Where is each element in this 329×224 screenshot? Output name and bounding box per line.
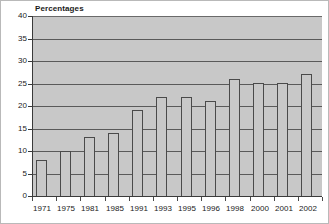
- y-tick-mark-15: [28, 129, 32, 130]
- percentages-bar-chart: Percentages 0510152025303540 19711975198…: [0, 0, 329, 224]
- x-tick-label-1995: 1995: [175, 204, 199, 213]
- x-tick-mark-1985: [105, 197, 106, 201]
- y-axis-tick-labels: 0510152025303540: [1, 1, 27, 224]
- y-tick-label-25: 25: [3, 80, 27, 88]
- y-tick-label-40: 40: [3, 12, 27, 20]
- y-tick-mark-30: [28, 61, 32, 62]
- x-tick-label-1985: 1985: [103, 204, 127, 213]
- x-tick-label-2001: 2001: [272, 204, 296, 213]
- y-tick-mark-25: [28, 84, 32, 85]
- bar-1991: [132, 110, 143, 196]
- y-tick-mark-40: [28, 16, 32, 17]
- y-tick-label-0: 0: [3, 192, 27, 200]
- y-tick-label-15: 15: [3, 125, 27, 133]
- x-tick-label-1991: 1991: [127, 204, 151, 213]
- gridline-30: [32, 61, 322, 62]
- plot-area: [32, 16, 322, 196]
- x-tick-label-1975: 1975: [54, 204, 78, 213]
- bar-1971: [36, 160, 47, 196]
- bar-2001: [277, 83, 288, 196]
- x-tick-mark-2002: [298, 197, 299, 201]
- y-tick-mark-10: [28, 151, 32, 152]
- x-tick-mark-1995: [177, 197, 178, 201]
- x-tick-mark-1998: [225, 197, 226, 201]
- x-tick-label-2000: 2000: [248, 204, 272, 213]
- y-tick-label-30: 30: [3, 57, 27, 65]
- y-tick-label-10: 10: [3, 147, 27, 155]
- y-tick-label-20: 20: [3, 102, 27, 110]
- x-tick-mark-1996: [201, 197, 202, 201]
- y-tick-mark-5: [28, 174, 32, 175]
- chart-title: Percentages: [35, 4, 84, 13]
- x-tick-mark-1991: [129, 197, 130, 201]
- x-tick-mark-2000: [250, 197, 251, 201]
- bar-1985: [108, 133, 119, 196]
- x-tick-mark-end: [322, 197, 323, 201]
- bar-1998: [229, 79, 240, 196]
- x-tick-mark-1993: [153, 197, 154, 201]
- y-tick-mark-20: [28, 106, 32, 107]
- bar-1981: [84, 137, 95, 196]
- bar-1995: [181, 97, 192, 196]
- bar-2002: [301, 74, 312, 196]
- bar-1993: [156, 97, 167, 196]
- bar-1996: [205, 101, 216, 196]
- gridline-35: [32, 39, 322, 40]
- x-tick-label-1996: 1996: [199, 204, 223, 213]
- x-tick-label-1998: 1998: [223, 204, 247, 213]
- x-tick-mark-1971: [32, 197, 33, 201]
- y-tick-mark-35: [28, 39, 32, 40]
- y-tick-label-35: 35: [3, 35, 27, 43]
- x-tick-mark-1975: [56, 197, 57, 201]
- x-tick-mark-2001: [274, 197, 275, 201]
- bar-2000: [253, 83, 264, 196]
- x-tick-label-1981: 1981: [78, 204, 102, 213]
- y-tick-label-5: 5: [3, 170, 27, 178]
- x-tick-label-2002: 2002: [296, 204, 320, 213]
- x-tick-label-1993: 1993: [151, 204, 175, 213]
- x-tick-mark-1981: [80, 197, 81, 201]
- x-tick-label-1971: 1971: [30, 204, 54, 213]
- y-axis-line: [32, 16, 33, 197]
- bar-1975: [60, 151, 71, 196]
- gridline-40: [32, 16, 322, 17]
